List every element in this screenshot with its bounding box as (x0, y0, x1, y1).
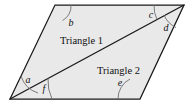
geometry-figure: Triangle 1 Triangle 2 a b c d e f (0, 0, 193, 109)
angle-label-e: e (118, 77, 123, 88)
angle-label-c: c (149, 9, 154, 20)
angle-label-a: a (26, 74, 31, 85)
angle-label-b: b (69, 17, 74, 28)
region-label-triangle-2: Triangle 2 (97, 65, 140, 76)
region-label-triangle-1: Triangle 1 (60, 35, 103, 46)
parallelogram-diagram: Triangle 1 Triangle 2 a b c d e f (0, 0, 193, 109)
